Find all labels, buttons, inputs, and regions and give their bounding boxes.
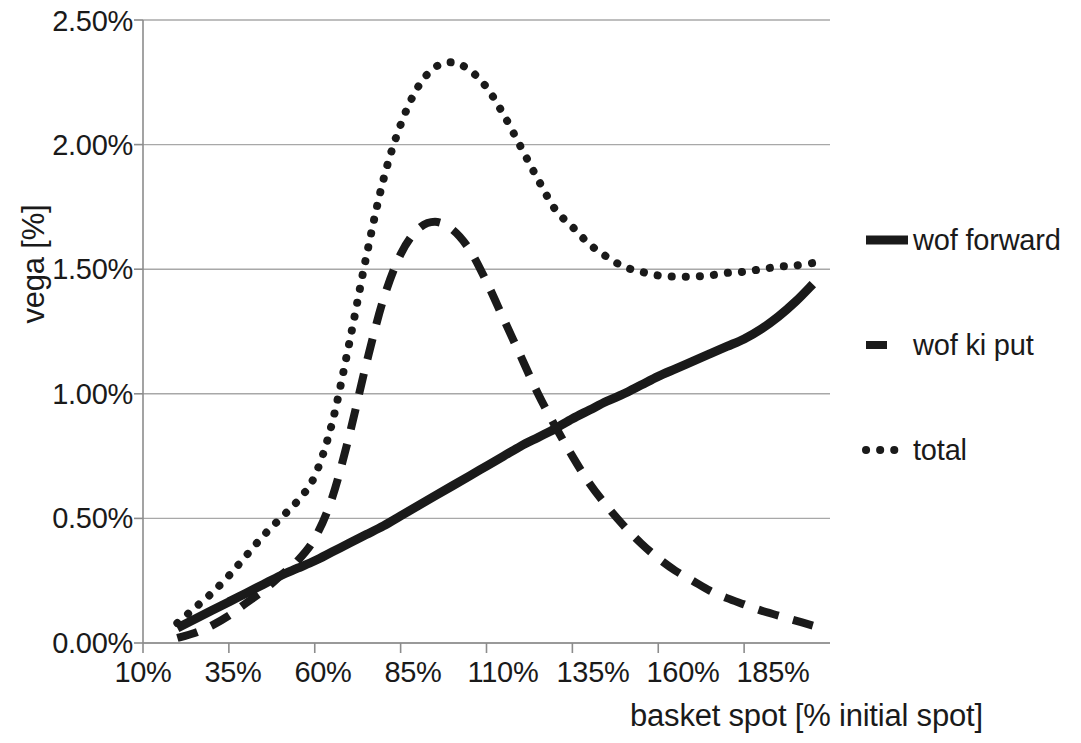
legend-marks — [866, 240, 908, 450]
legend-label-wof-ki-put: wof ki put — [913, 329, 1034, 362]
plot-canvas — [0, 0, 1081, 743]
axis-ticks — [134, 20, 744, 653]
series-line-total — [177, 62, 812, 623]
data-series-group — [177, 62, 812, 638]
gridlines — [143, 20, 830, 643]
legend-label-wof-forward: wof forward — [913, 224, 1061, 257]
legend-label-total: total — [913, 434, 967, 467]
series-line-wof-forward — [177, 284, 812, 628]
vega-chart-figure: vega [%] basket spot [% initial spot] 2.… — [0, 0, 1081, 743]
axis-lines — [143, 20, 830, 643]
